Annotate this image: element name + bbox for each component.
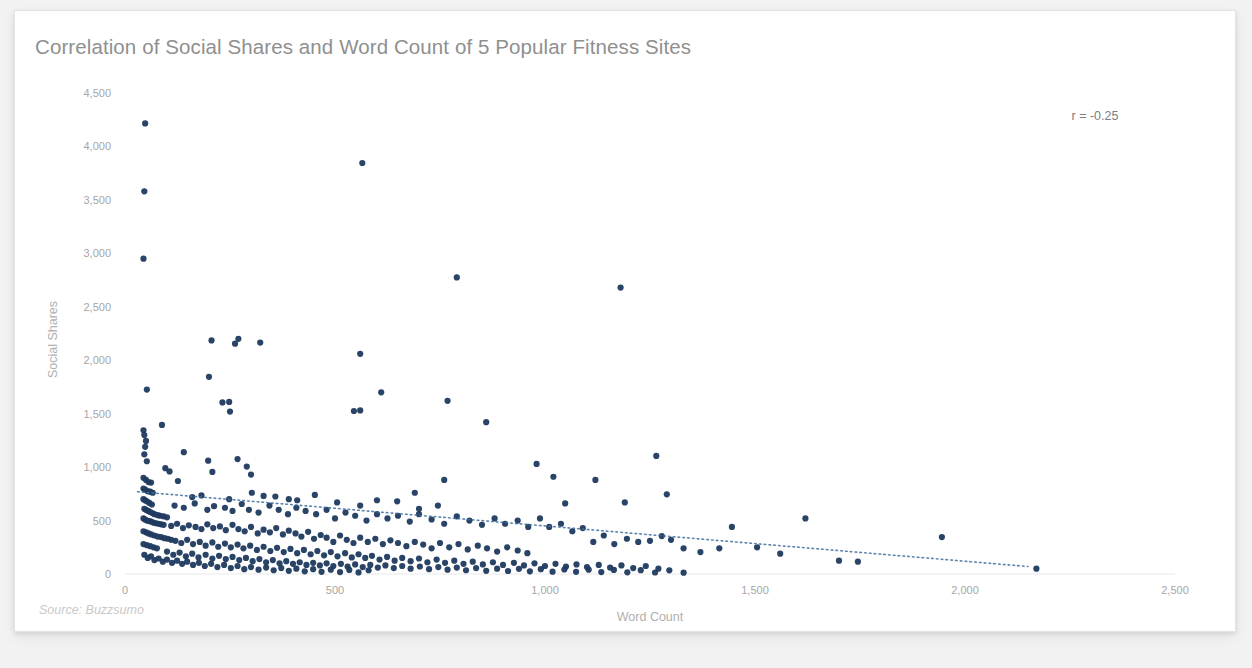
- y-tick-label: 1,000: [83, 461, 111, 473]
- data-point: [417, 563, 423, 569]
- data-point: [490, 559, 496, 565]
- data-point: [365, 539, 371, 545]
- data-point: [229, 508, 235, 514]
- data-point: [446, 544, 452, 550]
- data-point: [274, 545, 280, 551]
- x-tick-label: 1,000: [531, 584, 559, 596]
- data-point: [286, 496, 292, 502]
- data-point: [271, 567, 277, 573]
- data-point: [249, 490, 255, 496]
- data-point: [144, 387, 150, 393]
- data-point: [328, 549, 334, 555]
- y-tick-label: 500: [93, 515, 111, 527]
- data-point: [407, 519, 413, 525]
- data-point: [357, 407, 363, 413]
- data-point: [357, 351, 363, 357]
- data-point: [349, 554, 355, 560]
- data-point: [538, 566, 544, 572]
- data-point: [638, 567, 644, 573]
- data-point: [255, 530, 261, 536]
- data-point: [369, 553, 375, 559]
- data-point: [475, 543, 481, 549]
- data-point: [601, 532, 607, 538]
- data-point: [234, 542, 240, 548]
- data-point: [243, 555, 249, 561]
- data-point: [221, 562, 227, 568]
- data-point: [590, 539, 596, 545]
- data-point: [505, 568, 511, 574]
- data-point: [399, 563, 405, 569]
- data-point: [142, 444, 148, 450]
- data-point: [337, 569, 343, 575]
- data-point: [366, 567, 372, 573]
- data-point: [836, 558, 842, 564]
- data-point: [177, 550, 183, 556]
- data-point: [502, 521, 508, 527]
- data-point: [297, 559, 303, 565]
- data-point: [416, 506, 422, 512]
- data-point: [285, 511, 291, 517]
- data-point: [281, 549, 287, 555]
- x-tick-label: 2,500: [1161, 584, 1189, 596]
- data-point: [312, 492, 318, 498]
- data-point: [352, 561, 358, 567]
- y-axis-title: Social Shares: [46, 301, 60, 378]
- data-point: [399, 555, 405, 561]
- data-point: [549, 569, 555, 575]
- data-point: [342, 509, 348, 515]
- data-point: [420, 542, 426, 548]
- data-point: [562, 500, 568, 506]
- data-point: [292, 530, 298, 536]
- data-point: [441, 477, 447, 483]
- data-point: [360, 564, 366, 570]
- data-point: [239, 501, 245, 507]
- data-point: [527, 568, 533, 574]
- data-point: [355, 569, 361, 575]
- data-point: [351, 408, 357, 414]
- data-point: [434, 556, 440, 562]
- data-point: [531, 560, 537, 566]
- data-point: [384, 515, 390, 521]
- data-point: [777, 551, 783, 557]
- data-point: [372, 536, 378, 542]
- data-point: [376, 556, 382, 562]
- data-point: [321, 552, 327, 558]
- data-point: [208, 561, 214, 567]
- data-point: [392, 558, 398, 564]
- data-point: [142, 120, 148, 126]
- data-points: [140, 120, 1039, 575]
- data-point: [647, 538, 653, 544]
- data-point: [317, 562, 323, 568]
- data-point: [466, 517, 472, 523]
- data-point: [463, 567, 469, 573]
- data-point: [598, 569, 604, 575]
- data-point: [204, 507, 210, 513]
- data-point: [480, 561, 486, 567]
- data-point: [367, 562, 373, 568]
- data-point: [283, 558, 289, 564]
- data-point: [391, 565, 397, 571]
- data-point: [186, 522, 192, 528]
- data-point: [263, 564, 269, 570]
- data-point: [198, 526, 204, 532]
- data-point: [222, 505, 228, 511]
- data-point: [403, 543, 409, 549]
- scatter-plot: 05001,0001,5002,0002,5003,0003,5004,0004…: [15, 11, 1237, 633]
- data-point: [384, 554, 390, 560]
- data-point: [278, 565, 284, 571]
- data-point: [143, 438, 149, 444]
- data-point: [332, 515, 338, 521]
- source-caption: Source: Buzzsumo: [39, 603, 144, 617]
- data-point: [550, 474, 556, 480]
- data-point: [144, 458, 150, 464]
- data-point: [375, 564, 381, 570]
- data-point: [217, 523, 223, 529]
- data-point: [270, 557, 276, 563]
- data-point: [429, 516, 435, 522]
- x-tick-label: 500: [326, 584, 344, 596]
- data-point: [190, 541, 196, 547]
- data-point: [171, 502, 177, 508]
- data-point: [324, 535, 330, 541]
- data-point: [246, 507, 252, 513]
- data-point: [470, 559, 476, 565]
